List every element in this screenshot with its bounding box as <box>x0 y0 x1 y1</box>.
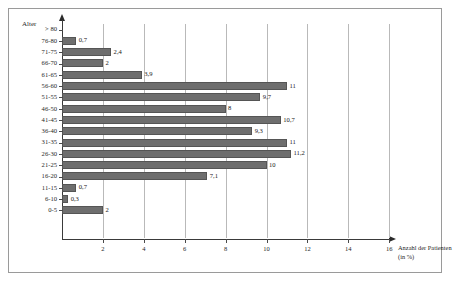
y-axis-tick <box>59 154 63 155</box>
gridline <box>389 24 390 238</box>
y-axis-category-label: 71-75 <box>17 48 57 55</box>
bar-value-label: 0,7 <box>79 183 87 190</box>
x-axis-title: Anzahl der Patienten (in %) <box>398 244 453 261</box>
bar-row: 11 <box>62 81 389 92</box>
y-axis-tick <box>59 210 63 211</box>
bar-row: 11 <box>62 137 389 148</box>
bar <box>62 59 103 67</box>
chart-figure: Alter Anzahl der Patienten (in %) 0,72,4… <box>0 0 453 283</box>
bar-row: 9,7 <box>62 92 389 103</box>
bar <box>62 71 142 79</box>
bar <box>62 48 111 56</box>
y-axis-tick <box>59 109 63 110</box>
y-axis-tick <box>59 86 63 87</box>
y-axis-category-label: 36-40 <box>17 127 57 134</box>
y-axis-tick <box>59 120 63 121</box>
y-axis-tick <box>59 41 63 42</box>
x-axis-tick <box>185 239 186 243</box>
bar-row: 2 <box>62 205 389 216</box>
bar-value-label: 11,2 <box>294 149 305 156</box>
bar-row: 10 <box>62 160 389 171</box>
bar-value-label: 2 <box>105 206 108 213</box>
bar-row: 9,3 <box>62 126 389 137</box>
y-axis-tick <box>59 165 63 166</box>
bar-value-label: 9,7 <box>263 93 271 100</box>
bar-value-label: 11 <box>289 82 295 89</box>
x-axis-tick <box>307 239 308 243</box>
y-axis-category-label: 11-15 <box>17 184 57 191</box>
y-axis-tick <box>59 143 63 144</box>
bar-row: 3,9 <box>62 69 389 80</box>
bar <box>62 161 267 169</box>
bar <box>62 127 252 135</box>
bar <box>62 93 260 101</box>
bar <box>62 82 287 90</box>
x-axis-tick-label: 10 <box>255 245 279 252</box>
bar-value-label: 8 <box>228 104 231 111</box>
y-axis-tick <box>59 188 63 189</box>
x-axis-tick-label: 16 <box>377 245 401 252</box>
bar-value-label: 2 <box>105 59 108 66</box>
bar <box>62 206 103 214</box>
bar-value-label: 0,3 <box>71 195 79 202</box>
bar-row: 11,2 <box>62 148 389 159</box>
y-axis-category-label: 56-60 <box>17 82 57 89</box>
x-axis-tick-label: 6 <box>173 245 197 252</box>
y-axis-category-label: 6-10 <box>17 195 57 202</box>
bar-value-label: 0,7 <box>79 36 87 43</box>
y-axis-category-label: 61-65 <box>17 71 57 78</box>
x-axis-line <box>62 239 392 240</box>
y-axis-category-label: 16-20 <box>17 172 57 179</box>
bar-value-label: 9,3 <box>255 127 263 134</box>
x-axis-tick-label: 14 <box>336 245 360 252</box>
y-axis-category-label: > 80 <box>17 25 57 32</box>
x-axis-tick-label: 4 <box>132 245 156 252</box>
bar-value-label: 7,1 <box>210 172 218 179</box>
y-axis-tick <box>59 131 63 132</box>
y-axis-category-label: 41-45 <box>17 116 57 123</box>
x-axis-tick-label: 8 <box>214 245 238 252</box>
y-axis-tick <box>59 199 63 200</box>
bar-row: 0,3 <box>62 194 389 205</box>
y-axis-category-label: 31-35 <box>17 138 57 145</box>
x-axis-tick <box>103 239 104 243</box>
y-axis-category-label: 26-30 <box>17 150 57 157</box>
bar-value-label: 2,4 <box>114 48 122 55</box>
x-axis-tick <box>267 239 268 243</box>
bar-row: 2,4 <box>62 47 389 58</box>
x-axis-tick <box>226 239 227 243</box>
bar-row: 7,1 <box>62 171 389 182</box>
bar-value-label: 10 <box>269 161 276 168</box>
bar-row <box>62 24 389 35</box>
bar-row: 8 <box>62 103 389 114</box>
y-axis-category-label: 66-70 <box>17 59 57 66</box>
bar-row: 0,7 <box>62 182 389 193</box>
x-axis-tick <box>348 239 349 243</box>
y-axis-category-label: 76-80 <box>17 37 57 44</box>
y-axis-tick <box>59 64 63 65</box>
y-axis-tick <box>59 97 63 98</box>
bar-row: 0,7 <box>62 35 389 46</box>
y-axis-category-label: 51-55 <box>17 93 57 100</box>
x-axis-tick <box>389 239 390 243</box>
bar <box>62 105 226 113</box>
y-axis-tick <box>59 75 63 76</box>
y-axis-tick <box>59 52 63 53</box>
bar <box>62 116 281 124</box>
bar-value-label: 3,9 <box>144 70 152 77</box>
bar <box>62 37 76 45</box>
bar-row: 2 <box>62 58 389 69</box>
y-axis-category-label: 21-25 <box>17 161 57 168</box>
bar <box>62 172 207 180</box>
y-axis-tick <box>59 30 63 31</box>
bar <box>62 139 287 147</box>
x-axis-tick <box>144 239 145 243</box>
bar <box>62 184 76 192</box>
y-axis-category-label: 0-5 <box>17 206 57 213</box>
bar-row: 10,7 <box>62 114 389 125</box>
y-axis-tick <box>59 177 63 178</box>
bar <box>62 150 291 158</box>
x-axis-tick-label: 12 <box>295 245 319 252</box>
plot-area: 0,72,423,9119,7810,79,31111,2107,10,70,3… <box>62 24 389 238</box>
bar-value-label: 11 <box>289 138 295 145</box>
